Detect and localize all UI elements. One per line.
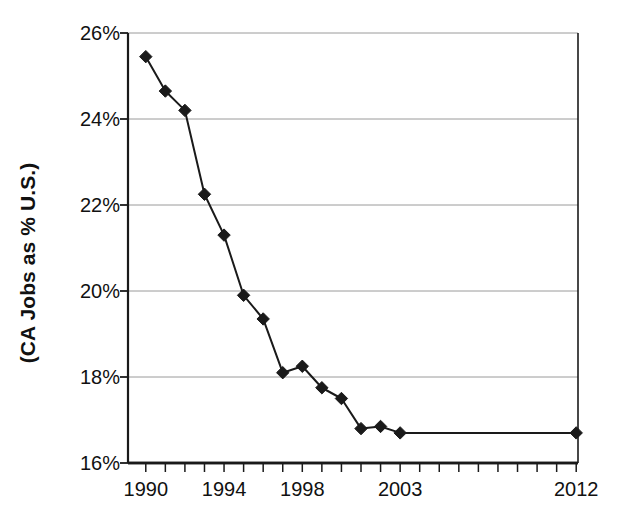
- data-point-marker[interactable]: [335, 392, 347, 404]
- data-point-marker[interactable]: [218, 229, 230, 241]
- plot-area: [0, 0, 620, 526]
- data-point-marker[interactable]: [198, 188, 210, 200]
- data-point-marker[interactable]: [394, 427, 406, 439]
- data-point-marker[interactable]: [570, 427, 582, 439]
- series-line: [146, 57, 576, 433]
- data-point-marker[interactable]: [140, 50, 152, 62]
- data-point-marker[interactable]: [355, 422, 367, 434]
- data-point-marker[interactable]: [374, 420, 386, 432]
- chart-figure: (CA Jobs as % U.S.) 16%18%20%22%24%26% 1…: [0, 0, 620, 526]
